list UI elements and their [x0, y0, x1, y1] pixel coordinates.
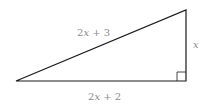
base-label: 2x + 2: [88, 91, 121, 102]
right-angle-marker: [177, 72, 186, 81]
right-triangle: [16, 10, 186, 81]
hypotenuse-label: 2x + 3: [77, 27, 110, 38]
height-label: x: [193, 39, 199, 50]
triangle-diagram: 2x + 3 2x + 2 x: [0, 0, 204, 108]
